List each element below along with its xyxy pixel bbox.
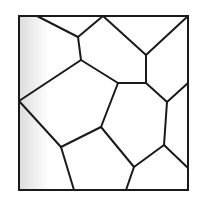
cell-edge	[126, 167, 134, 190]
cell-edge	[101, 83, 118, 127]
cell-edge	[101, 127, 134, 167]
cell-edge	[134, 145, 164, 167]
cell-edge	[146, 83, 167, 102]
voronoi-diagram	[0, 0, 202, 200]
left-shading	[19, 16, 49, 190]
cell-edge	[78, 37, 81, 60]
cell-edge	[103, 16, 146, 55]
cell-edge	[78, 16, 103, 37]
cell-edge	[164, 145, 188, 168]
cell-edge	[81, 60, 118, 83]
cell-edge	[61, 127, 101, 147]
cell-edge	[146, 16, 188, 55]
cell-edge	[167, 83, 188, 102]
cell-edge	[164, 102, 167, 145]
cell-edge	[61, 147, 74, 190]
